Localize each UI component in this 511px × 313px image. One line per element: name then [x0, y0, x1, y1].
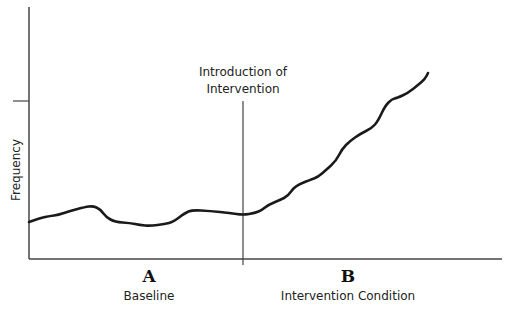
intervention-annotation: Introduction of Intervention: [199, 64, 287, 98]
phase-a-letter: A: [142, 266, 155, 286]
phase-a-name: Baseline: [124, 289, 175, 303]
ab-design-chart: [0, 0, 511, 313]
y-axis-label: Frequency: [9, 139, 23, 201]
annotation-line-1: Introduction of: [199, 64, 287, 81]
phase-b-letter: B: [341, 266, 355, 286]
annotation-line-2: Intervention: [199, 81, 287, 98]
phase-b-name: Intervention Condition: [281, 289, 415, 303]
